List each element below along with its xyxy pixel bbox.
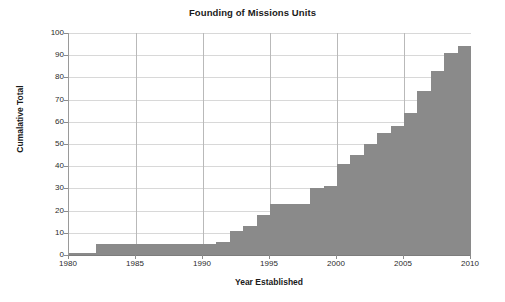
x-tick-mark-1995 xyxy=(269,255,270,259)
x-tick-label-2010: 2010 xyxy=(450,259,490,268)
area-step-1987 xyxy=(163,244,177,255)
x-tick-mark-1980 xyxy=(68,255,69,259)
area-step-1994 xyxy=(257,215,271,255)
area-step-1998 xyxy=(310,188,324,255)
area-step-1983 xyxy=(109,244,123,255)
area-step-2001 xyxy=(350,155,364,255)
x-tick-label-1990: 1990 xyxy=(182,259,222,268)
area-step-2002 xyxy=(364,144,378,255)
area-step-1997 xyxy=(297,204,311,255)
area-step-2005 xyxy=(404,113,418,255)
y-tick-label-10: 10 xyxy=(34,229,64,237)
y-tick-label-30: 30 xyxy=(34,184,64,192)
area-step-1984 xyxy=(123,244,137,255)
area-step-1985 xyxy=(136,244,150,255)
area-step-2004 xyxy=(391,126,405,255)
area-step-1999 xyxy=(324,186,338,255)
x-tick-mark-2000 xyxy=(336,255,337,259)
area-step-1996 xyxy=(283,204,297,255)
y-tick-label-80: 80 xyxy=(34,73,64,81)
area-step-1991 xyxy=(216,242,230,255)
x-tick-mark-1985 xyxy=(135,255,136,259)
area-step-2000 xyxy=(337,164,351,255)
y-tick-label-70: 70 xyxy=(34,96,64,104)
x-tick-label-1985: 1985 xyxy=(115,259,155,268)
x-axis-title: Year Established xyxy=(68,277,470,287)
area-step-1988 xyxy=(176,244,190,255)
plot-area xyxy=(68,33,471,255)
chart-figure: Founding of Missions Units 0102030405060… xyxy=(0,0,505,302)
y-tick-label-100: 100 xyxy=(34,29,64,37)
x-tick-label-1995: 1995 xyxy=(249,259,289,268)
y-tick-label-50: 50 xyxy=(34,140,64,148)
y-tick-label-90: 90 xyxy=(34,51,64,59)
area-step-1989 xyxy=(190,244,204,255)
area-step-1990 xyxy=(203,244,217,255)
area-step-2006 xyxy=(417,91,431,255)
area-step-1993 xyxy=(243,226,257,255)
chart-title: Founding of Missions Units xyxy=(0,7,505,18)
area-step-1982 xyxy=(96,244,110,255)
cumulative-total-area-series xyxy=(69,33,471,255)
x-tick-mark-2010 xyxy=(470,255,471,259)
x-tick-label-1980: 1980 xyxy=(48,259,88,268)
area-step-2008 xyxy=(444,53,458,255)
y-tick-label-0: 0 xyxy=(34,251,64,259)
y-tick-label-20: 20 xyxy=(34,207,64,215)
area-step-1986 xyxy=(149,244,163,255)
area-step-1992 xyxy=(230,231,244,255)
y-axis-title: Cumalative Total xyxy=(15,44,25,194)
x-tick-label-2005: 2005 xyxy=(383,259,423,268)
x-tick-mark-1990 xyxy=(202,255,203,259)
area-step-1995 xyxy=(270,204,284,255)
y-axis-tick-labels: 0102030405060708090100 xyxy=(30,0,64,302)
x-tick-mark-2005 xyxy=(403,255,404,259)
x-tick-label-2000: 2000 xyxy=(316,259,356,268)
area-step-2009 xyxy=(458,46,471,255)
area-step-2003 xyxy=(377,133,391,255)
y-tick-label-60: 60 xyxy=(34,118,64,126)
area-step-2007 xyxy=(431,71,445,255)
y-tick-label-40: 40 xyxy=(34,162,64,170)
